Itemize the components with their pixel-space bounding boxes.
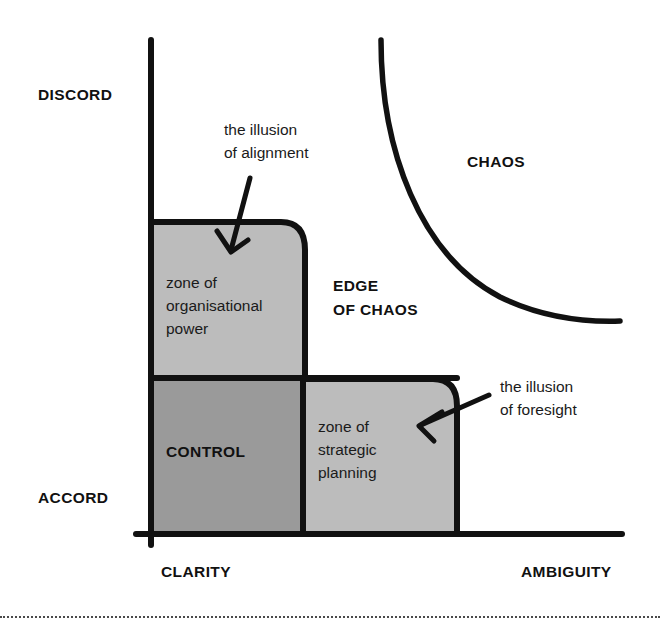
callout-illusion-of-foresight-line-2: of foresight [500, 401, 577, 418]
region-label-edge-of-chaos-line-1: EDGE [333, 277, 379, 294]
callout-illusion-of-alignment-line-2: of alignment [224, 144, 309, 161]
callout-illusion-of-alignment-line-1: the illusion [224, 121, 297, 138]
region-label-chaos: CHAOS [467, 153, 525, 170]
callout-illusion-of-alignment: the illusion of alignment [224, 121, 309, 161]
axis-label-discord: DISCORD [38, 86, 112, 103]
zone-label-organisational-power-line-2: organisational [166, 297, 263, 314]
chaos-curve [381, 40, 620, 321]
footer-divider [0, 616, 660, 618]
region-label-edge-of-chaos: EDGE OF CHAOS [333, 277, 418, 318]
callout-illusion-of-foresight-line-1: the illusion [500, 378, 573, 395]
axis-label-accord: ACCORD [38, 489, 108, 506]
zone-label-organisational-power-line-3: power [166, 320, 208, 337]
zone-label-strategic-planning: zone of strategic planning [318, 418, 377, 481]
zone-label-strategic-planning-line-1: zone of [318, 418, 370, 435]
zone-label-organisational-power-line-1: zone of [166, 274, 218, 291]
diagram-canvas: DISCORD ACCORD CLARITY AMBIGUITY zone of… [0, 0, 660, 622]
zone-label-strategic-planning-line-2: strategic [318, 441, 377, 458]
region-label-edge-of-chaos-line-2: OF CHAOS [333, 301, 418, 318]
zone-label-control: CONTROL [166, 443, 245, 460]
axis-label-clarity: CLARITY [161, 563, 231, 580]
axis-label-ambiguity: AMBIGUITY [521, 563, 612, 580]
callout-illusion-of-foresight: the illusion of foresight [500, 378, 577, 418]
zone-label-strategic-planning-line-3: planning [318, 464, 377, 481]
edge-of-chaos-diagram: DISCORD ACCORD CLARITY AMBIGUITY zone of… [0, 0, 660, 622]
